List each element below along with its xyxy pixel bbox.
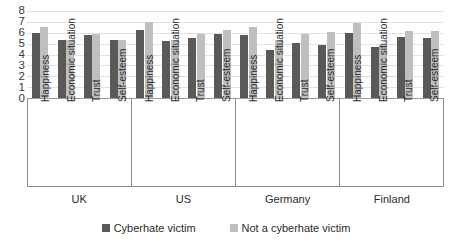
category-cell: Happiness xyxy=(236,99,262,186)
category-cell: Happiness xyxy=(132,99,158,186)
category-cell: Economic situation xyxy=(262,99,288,186)
category-label-band: HappinessEconomic situationTrustSelf-est… xyxy=(27,99,444,187)
category-group-finland: HappinessEconomic situationTrustSelf-est… xyxy=(339,99,444,187)
legend-swatch-icon xyxy=(230,224,238,232)
category-group-germany: HappinessEconomic situationTrustSelf-est… xyxy=(235,99,339,187)
bar-chart: 012345678 HappinessEconomic situationTru… xyxy=(0,0,452,249)
category-cell: Trust xyxy=(288,99,314,186)
legend-item[interactable]: Cyberhate victim xyxy=(102,223,196,234)
y-tick-5: 5 xyxy=(8,38,25,50)
category-label: Economic situation xyxy=(171,18,181,102)
legend-swatch-icon xyxy=(102,224,110,232)
bar[interactable] xyxy=(32,33,40,98)
legend-item[interactable]: Not a cyberhate victim xyxy=(230,223,351,234)
group-label-germany: Germany xyxy=(236,190,340,208)
y-tick-3: 3 xyxy=(8,60,25,72)
group-label-uk: UK xyxy=(27,190,131,208)
category-label: Trust xyxy=(404,80,414,102)
category-cell: Self-esteem xyxy=(417,99,443,186)
category-label: Trust xyxy=(300,80,310,102)
y-tick-8: 8 xyxy=(8,5,25,17)
legend-label: Cyberhate victim xyxy=(114,223,196,234)
bar[interactable] xyxy=(162,41,170,98)
bar[interactable] xyxy=(58,40,66,98)
category-label: Happiness xyxy=(249,55,259,102)
category-label: Self-esteem xyxy=(222,49,232,102)
y-tick-0: 0 xyxy=(8,93,25,105)
category-cell: Self-esteem xyxy=(105,99,131,186)
category-cell: Self-esteem xyxy=(313,99,339,186)
category-group-us: HappinessEconomic situationTrustSelf-est… xyxy=(131,99,235,187)
y-tick-6: 6 xyxy=(8,27,25,39)
category-cell: Economic situation xyxy=(158,99,184,186)
y-tick-1: 1 xyxy=(8,82,25,94)
group-label-row: UKUSGermanyFinland xyxy=(27,190,444,208)
y-tick-4: 4 xyxy=(8,49,25,61)
category-cell: Economic situation xyxy=(54,99,80,186)
category-cell: Trust xyxy=(392,99,418,186)
category-label: Trust xyxy=(92,80,102,102)
category-label: Self-esteem xyxy=(326,49,336,102)
y-axis-tick-labels: 012345678 xyxy=(8,11,25,99)
group-label-us: US xyxy=(131,190,235,208)
bar[interactable] xyxy=(136,30,144,99)
category-cell: Trust xyxy=(184,99,210,186)
category-group-uk: HappinessEconomic situationTrustSelf-est… xyxy=(27,99,131,187)
category-cell: Economic situation xyxy=(366,99,392,186)
y-tick-7: 7 xyxy=(8,16,25,28)
category-label: Happiness xyxy=(41,55,51,102)
category-cell: Happiness xyxy=(28,99,54,186)
chart-legend: Cyberhate victimNot a cyberhate victim xyxy=(0,218,452,238)
category-label: Economic situation xyxy=(67,18,77,102)
category-cell: Self-esteem xyxy=(209,99,235,186)
group-label-finland: Finland xyxy=(340,190,444,208)
y-tick-2: 2 xyxy=(8,71,25,83)
category-label: Happiness xyxy=(145,55,155,102)
category-label: Trust xyxy=(196,80,206,102)
category-cell: Happiness xyxy=(340,99,366,186)
category-label: Happiness xyxy=(353,55,363,102)
category-label: Economic situation xyxy=(275,18,285,102)
legend-label: Not a cyberhate victim xyxy=(242,223,351,234)
category-label: Self-esteem xyxy=(430,49,440,102)
category-cell: Trust xyxy=(80,99,106,186)
category-label: Self-esteem xyxy=(118,49,128,102)
category-label: Economic situation xyxy=(379,18,389,102)
